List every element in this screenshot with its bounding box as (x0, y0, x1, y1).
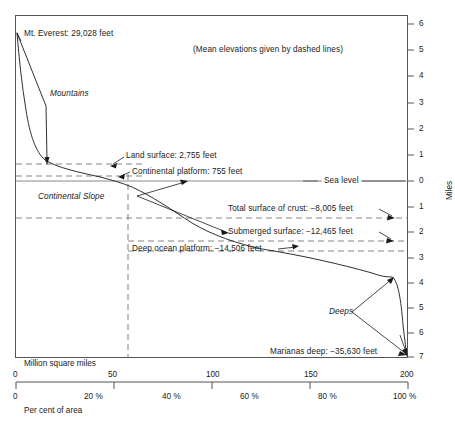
land-surface-leader (113, 157, 124, 164)
annotation-continental-platform: Continental platform: 755 feet (132, 167, 242, 176)
x-secondary-tick-label-20: 20 % (84, 392, 103, 401)
y-tick-label-6-up: 6 (419, 19, 424, 28)
annotation-submerged-surface: Submerged surface: −12,465 feet (228, 227, 353, 236)
figure-note: (Mean elevations given by dashed lines) (193, 45, 343, 54)
continental-slope-leader-upper (137, 182, 185, 196)
x-primary-tick-label-100: 100 (206, 370, 220, 379)
y-axis-ticks (408, 24, 414, 357)
annotation-mt-everest: Mt. Everest: 29,028 feet (24, 29, 113, 38)
x-axis-primary-title: Million square miles (24, 359, 96, 368)
x-secondary-tick-label-60: 60 % (240, 392, 259, 401)
x-secondary-tick-label-0: 0 (13, 392, 18, 401)
deeps-arrowhead-upper-icon (387, 277, 394, 284)
annotation-deep-ocean-platform: Deep ocean platform: −14,506 feet (132, 244, 262, 253)
y-tick-label-1-up: 1 (419, 150, 424, 159)
deeps-leader-upper (352, 279, 392, 312)
y-tick-label-0: 0 (419, 176, 424, 185)
annotation-mountains: Mountains (50, 89, 89, 98)
y-tick-label-5-down: 5 (419, 303, 424, 312)
annotation-deeps: Deeps (329, 307, 353, 316)
annotation-total-crust: Total surface of crust: −8,005 feet (228, 204, 353, 213)
x-primary-tick-label-150: 150 (304, 370, 318, 379)
mountains-spur-upper (17, 33, 46, 106)
x-axis-primary-ticks (16, 382, 408, 389)
continental-slope-leader-lower (137, 196, 226, 232)
annotation-marianas-deep: Marianas deep: −35,630 feet (270, 347, 377, 356)
continental-platform-arrowhead-icon (118, 174, 125, 180)
hypsographic-curve-figure: Mt. Everest: 29,028 feet Mountains (Mean… (0, 0, 455, 426)
y-tick-label-6-down: 6 (419, 328, 424, 337)
x-primary-tick-label-50: 50 (108, 370, 117, 379)
x-secondary-tick-label-40: 40 % (162, 392, 181, 401)
y-tick-label-3-down: 3 (419, 253, 424, 262)
submerged-surface-leader (379, 232, 391, 239)
sea-level-label: Sea level (322, 176, 361, 185)
x-secondary-tick-label-80: 80 % (318, 392, 337, 401)
deep-ocean-platform-arrowhead-icon (292, 244, 299, 250)
y-tick-label-4-up: 4 (419, 71, 424, 80)
annotation-continental-slope: Continental Slope (38, 192, 104, 201)
y-tick-label-5-up: 5 (419, 45, 424, 54)
y-tick-label-4-down: 4 (419, 278, 424, 287)
y-tick-label-2-down: 2 (419, 227, 424, 236)
x-primary-tick-label-200: 200 (400, 370, 414, 379)
x-secondary-tick-label-100: 100 % (393, 392, 416, 401)
annotation-land-surface: Land surface: 2,755 feet (126, 151, 217, 160)
y-tick-label-1-down: 1 (419, 202, 424, 211)
y-axis-title: Miles (445, 181, 454, 200)
mountains-spur-lower (46, 106, 47, 160)
x-primary-tick-label-0: 0 (13, 370, 18, 379)
continental-slope-arrowhead-upper-icon (180, 180, 188, 186)
x-axis-secondary-title: Per cent of area (24, 406, 82, 415)
y-tick-label-2-up: 2 (419, 124, 424, 133)
y-tick-label-7-down: 7 (419, 352, 424, 361)
total-crust-leader (379, 209, 392, 216)
y-tick-label-3-up: 3 (419, 98, 424, 107)
